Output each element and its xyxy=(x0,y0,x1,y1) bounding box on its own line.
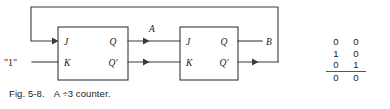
feedback-wire xyxy=(31,7,278,62)
figure-caption: Fig. 5-8.A ÷3 counter. xyxy=(9,88,110,99)
ff1-input-j-label: J xyxy=(64,37,69,47)
caption-description: A ÷3 counter. xyxy=(54,88,111,99)
table-row: 0 0 xyxy=(326,36,366,48)
table-cell: 0 xyxy=(346,71,366,83)
table-cell: 0 xyxy=(326,59,346,71)
signal-a-label: A xyxy=(148,24,155,34)
ff1-output-qbar-label: Q' xyxy=(109,58,119,68)
table-row-final: 0 0 xyxy=(326,71,366,83)
table-cell: 1 xyxy=(346,59,366,71)
ff2-input-k-label: K xyxy=(185,58,193,68)
state-sequence-grid: 0 0 1 0 0 1 0 0 xyxy=(326,36,366,83)
ff1-output-q-label: Q xyxy=(110,37,117,47)
flip-flop-1-box xyxy=(58,27,128,80)
ff2-output-q-label: Q xyxy=(221,37,228,47)
arrowhead-a xyxy=(143,38,150,45)
table-cell: 0 xyxy=(346,36,366,48)
ff1-input-k-label: K xyxy=(63,58,71,68)
table-cell: 0 xyxy=(346,48,366,60)
state-sequence-body: 0 0 1 0 0 1 0 0 xyxy=(326,36,366,83)
figure-container: J K Q Q' J K Q Q' "1" A B Fig. 5-8.A ÷3 … xyxy=(0,0,390,109)
flip-flop-2-box xyxy=(180,27,238,80)
arrowhead-qbar1 xyxy=(143,59,150,66)
ff2-output-qbar-label: Q' xyxy=(220,58,230,68)
arrowhead-qbar2 xyxy=(252,59,259,66)
state-sequence-table: 0 0 1 0 0 1 0 0 xyxy=(326,36,366,83)
signal-b-label: B xyxy=(266,37,272,47)
constant-one-label: "1" xyxy=(4,57,17,68)
table-cell: 0 xyxy=(326,71,346,83)
ff2-input-j-label: J xyxy=(186,37,191,47)
table-cell: 0 xyxy=(326,36,346,48)
figure-number: Fig. 5-8. xyxy=(9,88,45,99)
table-row: 1 0 xyxy=(326,48,366,60)
table-cell: 1 xyxy=(326,48,346,60)
table-row: 0 1 xyxy=(326,59,366,71)
